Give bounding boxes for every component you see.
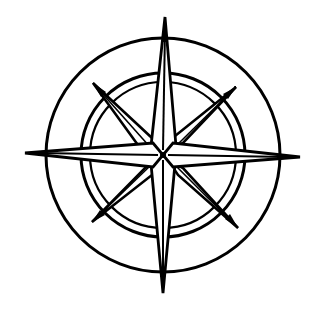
compass-rose-icon bbox=[0, 0, 312, 313]
center-point bbox=[160, 152, 166, 158]
compass-rose-canvas: compass rose bbox=[0, 0, 312, 313]
